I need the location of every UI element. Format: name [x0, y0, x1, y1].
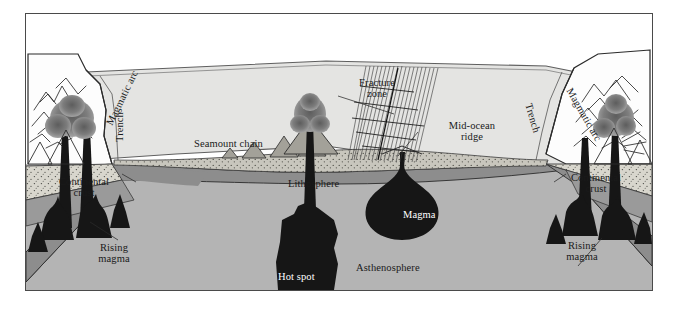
label-continental-crust-right: Continental crust: [562, 172, 630, 194]
label-rising-magma-right-line1: Rising: [556, 240, 608, 251]
label-rising-magma-left: Rising magma: [88, 242, 140, 264]
label-hot-spot: Hot spot: [278, 271, 315, 282]
label-rising-magma-right: Rising magma: [556, 240, 608, 262]
label-magma: Magma: [403, 209, 436, 220]
label-fracture-zone-line1: Fracture: [348, 77, 406, 88]
diagram-stage: Magmatic arc Trench Seamount chain Fract…: [0, 0, 676, 318]
label-mid-ocean-ridge-line1: Mid-ocean: [438, 120, 506, 131]
label-mid-ocean-ridge-line2: ridge: [438, 131, 506, 142]
label-trench-left: Trench: [114, 112, 125, 142]
label-continental-crust-left: Continental crust: [50, 176, 118, 198]
label-fracture-zone: Fracture zone: [348, 77, 406, 99]
label-fracture-zone-line2: zone: [348, 88, 406, 99]
label-continental-crust-right-line1: Continental: [562, 172, 630, 183]
label-continental-crust-left-line2: crust: [50, 187, 118, 198]
label-mid-ocean-ridge: Mid-ocean ridge: [438, 120, 506, 142]
label-continental-crust-left-line1: Continental: [50, 176, 118, 187]
label-continental-crust-right-line2: crust: [562, 183, 630, 194]
label-rising-magma-left-line1: Rising: [88, 242, 140, 253]
diagram-frame: Magmatic arc Trench Seamount chain Fract…: [25, 13, 653, 291]
label-lithosphere: Lithosphere: [288, 178, 339, 189]
label-rising-magma-left-line2: magma: [88, 253, 140, 264]
label-seamount-chain: Seamount chain: [194, 138, 263, 149]
label-asthenosphere: Asthenosphere: [356, 262, 420, 273]
label-rising-magma-right-line2: magma: [556, 251, 608, 262]
